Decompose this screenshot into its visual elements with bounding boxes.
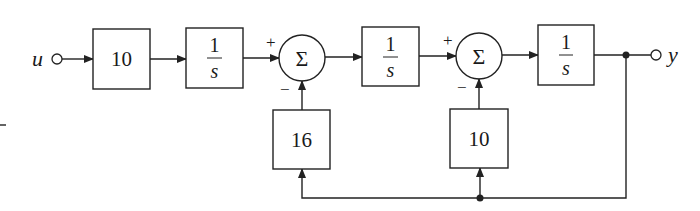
- int1-numerator: 1: [210, 34, 220, 56]
- int1-denominator: s: [211, 60, 219, 82]
- feedback-gain-1: 16: [291, 128, 312, 152]
- int2-denominator: s: [387, 59, 395, 81]
- feedback-block-2: 10: [450, 109, 508, 168]
- minus-sign: −: [280, 80, 290, 99]
- block-integrator-1: 1 s: [186, 28, 243, 88]
- plus-sign: +: [266, 33, 276, 52]
- block-gain: 10: [93, 29, 150, 89]
- block-gain-value: 10: [111, 47, 132, 71]
- sigma-symbol: Σ: [473, 44, 486, 69]
- output-terminal: [651, 50, 661, 60]
- plus-sign: +: [443, 31, 453, 50]
- minus-sign: −: [457, 78, 467, 97]
- input-label: u: [32, 46, 43, 71]
- block-integrator-2: 1 s: [362, 27, 419, 86]
- int3-numerator: 1: [561, 31, 571, 53]
- feedback-gain-2: 10: [469, 127, 490, 151]
- feedback-block-1: 16: [273, 110, 330, 169]
- block-integrator-3: 1 s: [538, 25, 594, 85]
- input-terminal: [52, 54, 62, 64]
- int3-denominator: s: [562, 57, 570, 79]
- int2-numerator: 1: [386, 33, 396, 55]
- summing-junction-2: Σ + −: [443, 31, 502, 97]
- output-label: y: [666, 42, 678, 67]
- summing-junction-1: Σ + −: [266, 33, 325, 99]
- sigma-symbol: Σ: [296, 46, 309, 71]
- block-diagram: u 10 1 s Σ + − 1 s Σ + − 1: [0, 0, 700, 211]
